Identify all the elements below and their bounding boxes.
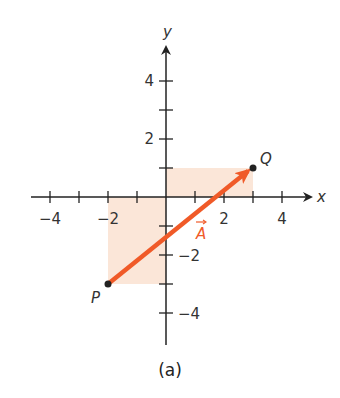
y-tick-label: −2 [178, 247, 200, 265]
point-p [105, 281, 112, 288]
vector-a-label: A [195, 225, 206, 243]
shaded-region-upper [166, 168, 253, 197]
x-axis-label: x [316, 188, 326, 206]
point-p-label: P [91, 289, 101, 307]
y-tick-label: 4 [144, 72, 154, 90]
point-q-label: Q [260, 150, 272, 168]
y-tick-label: −4 [178, 305, 200, 323]
vector-diagram: −4 −2 2 4 4 2 −2 −4 x y P Q A (a) [0, 0, 340, 398]
figure-caption: (a) [158, 360, 182, 380]
x-tick-label: −4 [39, 210, 61, 228]
x-tick-label: −2 [97, 210, 119, 228]
y-axis-label: y [162, 23, 173, 41]
x-tick-label: 2 [219, 210, 229, 228]
y-tick-label: 2 [144, 130, 154, 148]
point-q [250, 165, 257, 172]
x-tick-label: 4 [277, 210, 287, 228]
